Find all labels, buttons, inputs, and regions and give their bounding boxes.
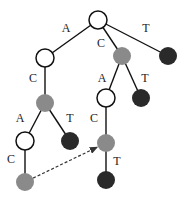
- node-CAC: [97, 134, 115, 152]
- edge-label: C: [90, 111, 98, 125]
- edge-label: C: [97, 36, 105, 50]
- suffix-link-arrow: [33, 147, 97, 178]
- edge-label: T: [66, 111, 74, 125]
- edge-label: A: [98, 71, 107, 85]
- suffix-links: [33, 147, 97, 178]
- edge-label: C: [29, 71, 37, 85]
- node-CACT: [97, 171, 115, 189]
- node-C: [113, 47, 131, 65]
- edge-root-T: [98, 20, 168, 56]
- trie-diagram: ACTCATATCCT: [0, 0, 187, 200]
- edge-label: T: [141, 71, 149, 85]
- edge-label: T: [142, 21, 150, 35]
- edge-label: C: [7, 152, 15, 166]
- node-A: [36, 49, 54, 67]
- node-AC: [36, 94, 54, 112]
- node-CA: [97, 89, 115, 107]
- node-ACAC: [16, 173, 34, 191]
- edge-label: A: [16, 111, 25, 125]
- edge-label: T: [113, 154, 121, 168]
- node-ACT: [61, 132, 79, 150]
- node-CT: [132, 89, 150, 107]
- edge-root-A: [45, 20, 98, 58]
- node-ACA: [16, 132, 34, 150]
- node-T: [159, 47, 177, 65]
- node-root: [89, 11, 107, 29]
- edge-label: A: [62, 21, 71, 35]
